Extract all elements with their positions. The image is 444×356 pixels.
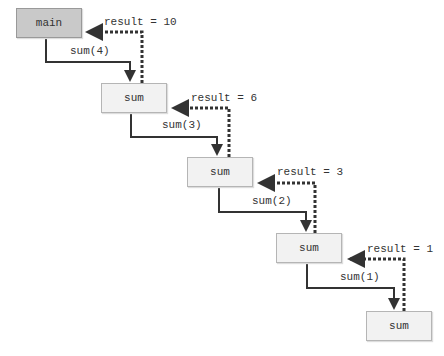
sum-node-3: sum: [276, 233, 342, 263]
call-label-2: sum(3): [162, 119, 202, 131]
return-label-1: result = 10: [104, 16, 177, 28]
return-label-4: result = 1: [367, 243, 433, 255]
sum-node-label: sum: [299, 242, 319, 254]
sum-node-label: sum: [124, 92, 144, 104]
main-node-label: main: [36, 17, 62, 29]
sum-node-1: sum: [101, 83, 167, 113]
sum-node-4: sum: [366, 311, 432, 341]
sum-node-2: sum: [187, 157, 253, 187]
main-node: main: [16, 8, 82, 38]
sum-node-label: sum: [389, 320, 409, 332]
return-label-2: result = 6: [191, 92, 257, 104]
call-label-4: sum(1): [340, 271, 380, 283]
call-label-3: sum(2): [252, 195, 292, 207]
sum-node-label: sum: [210, 166, 230, 178]
call-label-1: sum(4): [70, 45, 110, 57]
return-label-3: result = 3: [277, 166, 343, 178]
